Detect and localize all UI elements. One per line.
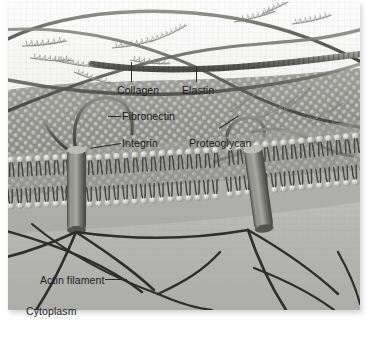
leader-elastin	[196, 66, 197, 82]
illustration-plate	[8, 2, 360, 310]
label-collagen: Collagen	[117, 84, 159, 96]
leader-fibronectin	[108, 116, 121, 117]
label-elastin: Elastin	[182, 84, 214, 96]
ecm-membrane-figure: Collagen Elastin Fibronectin Integrin Pr…	[0, 0, 367, 338]
leader-collagen	[131, 62, 132, 82]
integrin-left	[67, 146, 86, 234]
leader-actin-filament	[105, 279, 127, 280]
label-cytoplasm: Cytoplasm	[26, 305, 77, 317]
label-fibronectin: Fibronectin	[122, 110, 175, 122]
label-integrin: Integrin	[122, 137, 158, 149]
illustration-canvas	[8, 2, 360, 310]
label-actin-filament: Actin filament	[40, 274, 104, 286]
label-proteoglycan: Proteoglycan	[189, 137, 252, 149]
